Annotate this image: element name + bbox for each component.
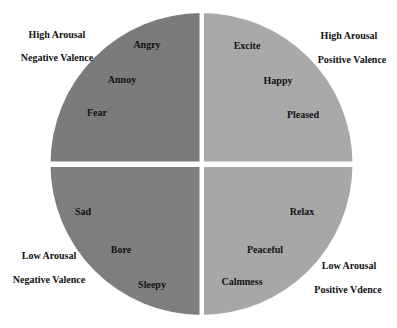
emotion-label-sleepy: Sleepy — [138, 280, 166, 290]
emotion-label-excite: Excite — [234, 41, 261, 51]
bottom-left-valence-label: Negative Valence — [13, 275, 86, 285]
top-left-valence-label: Negative Valence — [21, 53, 94, 63]
emotion-label-annoy: Annoy — [108, 75, 136, 85]
emotion-label-sad: Sad — [75, 207, 91, 217]
emotion-label-calmness: Calmness — [221, 277, 262, 287]
top-right-valence-label: Positive Valence — [318, 55, 387, 65]
emotion-quadrant-diagram: High Arousal Negative Valence Angry Anno… — [0, 0, 397, 328]
top-right-arousal-label: High Arousal — [321, 31, 378, 41]
emotion-label-pleased: Pleased — [287, 110, 319, 120]
emotion-label-relax: Relax — [290, 207, 314, 217]
emotion-label-happy: Happy — [264, 76, 293, 86]
bottom-left-arousal-label: Low Arousal — [22, 251, 77, 261]
bottom-right-valence-label: Positive Vdence — [314, 285, 381, 295]
emotion-label-fear: Fear — [87, 108, 107, 118]
emotion-label-bore: Bore — [111, 245, 131, 255]
emotion-label-peaceful: Peaceful — [247, 245, 283, 255]
bottom-right-arousal-label: Low Arousal — [322, 261, 377, 271]
top-left-arousal-label: High Arousal — [29, 30, 86, 40]
emotion-label-angry: Angry — [133, 40, 160, 50]
quadrant-bottom-left — [50, 167, 200, 317]
